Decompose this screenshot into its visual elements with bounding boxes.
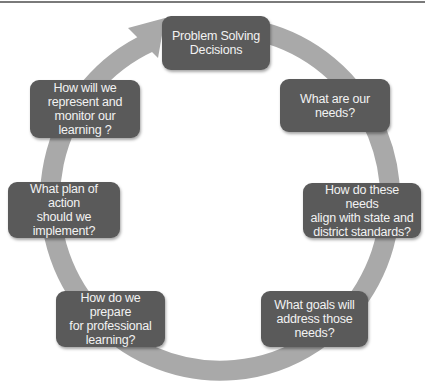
node-prepare: How do we prepare for professional learn…	[56, 291, 165, 347]
node-plan: What plan of action should we implement?	[8, 182, 120, 238]
node-label: How will we represent and monitor our le…	[48, 81, 123, 137]
node-label: What are our needs?	[300, 92, 370, 120]
node-goals: What goals will address those needs?	[261, 291, 368, 347]
node-label: How do we prepare for professional learn…	[62, 291, 159, 347]
node-label: How do these needs align with state and …	[309, 183, 415, 239]
node-problem-solving: Problem Solving Decisions	[162, 16, 270, 70]
node-needs: What are our needs?	[280, 79, 390, 132]
node-label: What goals will address those needs?	[274, 298, 354, 340]
node-align: How do these needs align with state and …	[303, 183, 421, 238]
node-monitor: How will we represent and monitor our le…	[30, 80, 140, 138]
node-label: Problem Solving Decisions	[172, 29, 260, 57]
node-label: What plan of action should we implement?	[14, 182, 114, 238]
